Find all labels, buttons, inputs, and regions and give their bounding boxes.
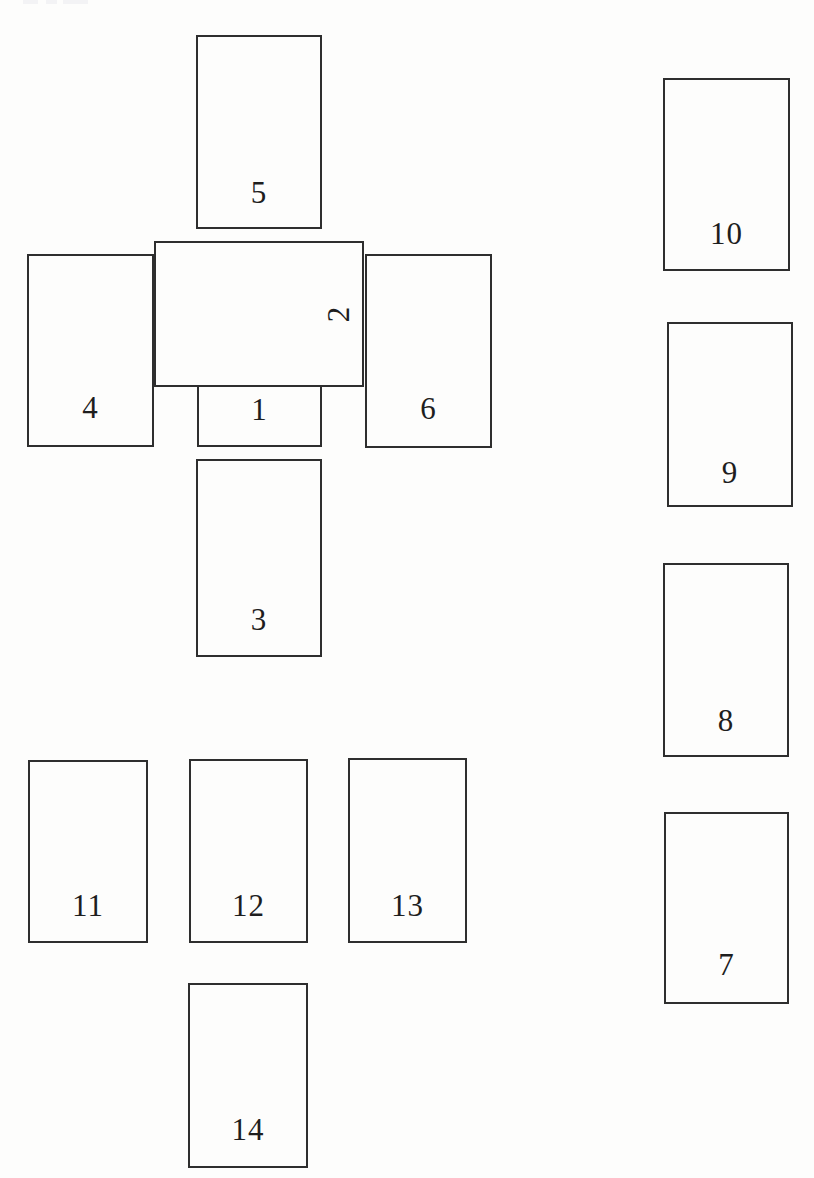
spread-card-13: 13 [348,758,467,943]
spread-card-6: 6 [365,254,492,448]
card-number-label: 8 [665,705,787,736]
card-number-label: 11 [30,890,146,921]
spread-card-14: 14 [188,983,308,1168]
card-number-label: 6 [367,393,490,424]
spread-card-4: 4 [27,254,154,447]
spread-card-10: 10 [663,78,790,271]
card-number-label: 12 [191,890,306,921]
card-number-label: 10 [665,218,788,249]
scan-artifact-mark [46,0,57,4]
scan-artifact-mark [63,0,88,4]
card-number-label: 3 [198,604,320,635]
scan-artifact-mark [23,0,38,4]
spread-card-7: 7 [664,812,789,1004]
card-number-label: 14 [190,1114,306,1145]
spread-card-2: 2 [154,241,364,387]
card-number-label: 1 [199,394,320,425]
card-number-label: 13 [350,890,465,921]
scanned-book-page: 1234567891011121314 [0,0,814,1178]
spread-card-8: 8 [663,563,789,757]
spread-card-9: 9 [667,322,793,507]
spread-card-3: 3 [196,459,322,657]
card-number-label: 9 [669,457,791,488]
card-number-label: 2 [323,304,354,324]
card-number-label: 4 [29,392,152,423]
spread-card-5: 5 [196,35,322,229]
spread-card-11: 11 [28,760,148,943]
spread-card-12: 12 [189,759,308,943]
card-number-label: 5 [198,177,320,208]
card-number-label: 7 [666,949,787,980]
